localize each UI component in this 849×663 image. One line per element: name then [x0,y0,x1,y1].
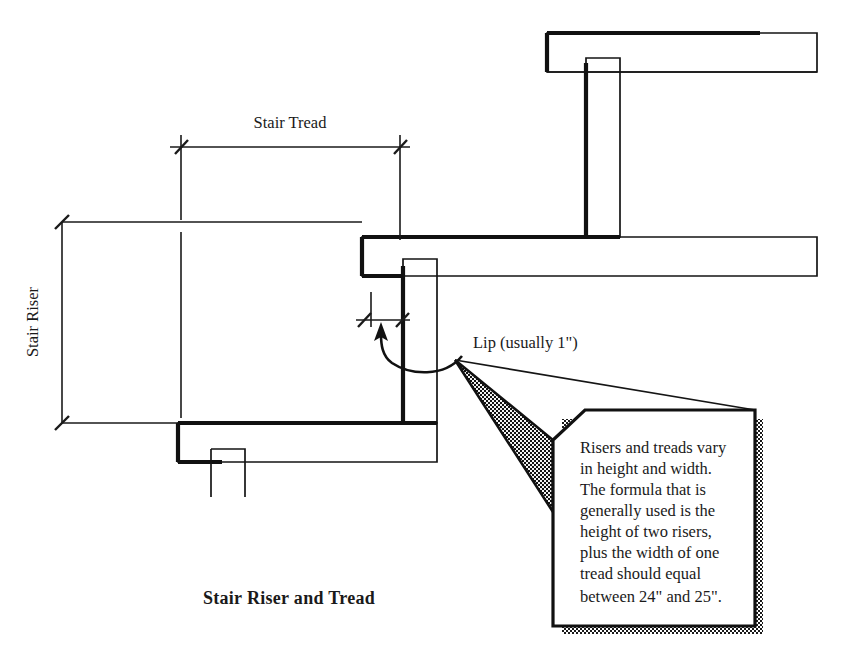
stair-riser-label: Stair Riser [23,286,42,357]
lower-riser-outline [403,259,437,423]
stair-diagram: Stair Tread Stair Riser Lip (usually 1") [0,0,849,663]
note-line: Risers and treads vary [580,438,727,457]
figure-canvas: Stair Tread Stair Riser Lip (usually 1") [0,0,849,663]
dimension-stair-tread: Stair Tread [170,113,410,418]
leader-wedge-shape [455,360,553,512]
upper-riser-outline [586,58,620,237]
figure-title: Stair Riser and Tread [203,588,375,608]
lip-arrow-curve [381,334,462,372]
stair-riser-stub [211,449,245,497]
note-line: height of two risers, [580,522,712,541]
stair-riser-upper [586,58,620,237]
middle-tread-outline [362,237,817,276]
lip-callout-label: Lip (usually 1") [473,333,578,352]
bottom-tread-outline [178,423,437,462]
note-line: in height and width. [580,459,712,478]
note-box: Risers and treads vary in height and wid… [553,410,755,626]
note-line: generally used is the [580,501,715,520]
stair-step-middle [362,237,817,276]
stair-tread-label: Stair Tread [254,113,328,132]
note-line: The formula that is [580,480,706,499]
stair-step-bottom [178,423,437,462]
note-line: tread should equal [580,564,701,583]
stair-riser-lower [403,259,437,423]
note-line: between 24" and 25". [580,587,722,606]
riser-stub-outline [211,449,245,497]
note-line: plus the width of one [580,543,719,562]
dimension-stair-riser: Stair Riser [23,215,362,430]
